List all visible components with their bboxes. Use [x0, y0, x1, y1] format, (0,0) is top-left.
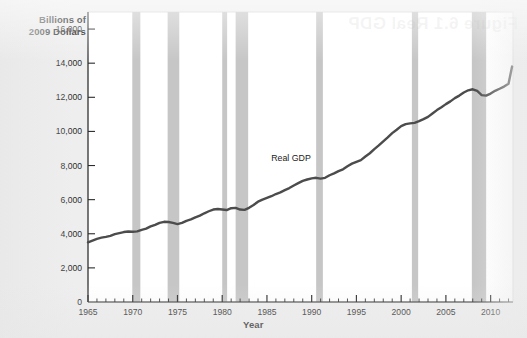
recession-band — [412, 12, 418, 302]
y-tick-label: 6,000 — [28, 195, 82, 205]
x-tick-label: 1990 — [302, 307, 321, 317]
recession-band — [132, 12, 140, 302]
recession-band — [472, 12, 486, 302]
y-tick-label: 10,000 — [28, 126, 82, 136]
x-tick-label: 1965 — [78, 307, 97, 317]
x-tick-label: 1985 — [257, 307, 276, 317]
y-tick-label: 14,000 — [28, 58, 82, 68]
x-tick-label: 2005 — [436, 307, 455, 317]
x-tick-label: 2000 — [392, 307, 411, 317]
x-tick-label: 2010 — [481, 307, 500, 317]
chart-figure: Figure 6.1 Real GDP Billions of 2009 Dol… — [0, 0, 527, 338]
recession-band — [316, 12, 323, 302]
recession-band — [168, 12, 180, 302]
series-annotation-real-gdp: Real GDP — [271, 153, 311, 163]
recession-band — [236, 12, 249, 302]
x-tick-label: 1970 — [123, 307, 142, 317]
x-tick-label: 1980 — [213, 307, 232, 317]
y-tick-label: 2,000 — [28, 263, 82, 273]
y-tick-label: 16,000 — [28, 24, 82, 34]
y-tick-label: 4,000 — [28, 229, 82, 239]
y-tick-label: 12,000 — [28, 92, 82, 102]
recession-band — [222, 12, 227, 302]
x-axis-title: Year — [243, 319, 263, 331]
y-tick-label: 8,000 — [28, 161, 82, 171]
x-tick-label: 1975 — [168, 307, 187, 317]
y-tick-label: 0 — [28, 297, 82, 307]
x-tick-label: 1995 — [347, 307, 366, 317]
